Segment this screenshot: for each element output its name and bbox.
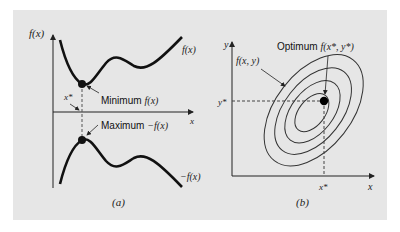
panel-a: f(x) x f(x) −f(x) x* Minimumf(x) Maximum… [29, 27, 201, 209]
optimum-arrow [325, 56, 328, 94]
maximum-arrow [87, 125, 98, 135]
x-star-label-a: x* [63, 92, 73, 102]
contour-1 [244, 36, 383, 184]
y-axis-label-a: f(x) [29, 27, 45, 40]
curve-f-label: f(x) [182, 44, 197, 56]
minimum-arrow [87, 86, 99, 93]
surface-label: f(x, y) [236, 55, 260, 67]
maximum-label: Maximum−f(x) [101, 120, 169, 132]
x-star-label-b: x* [318, 182, 328, 192]
surface-arrow [261, 69, 285, 86]
x-star-arrow-a [70, 104, 79, 110]
panel-b: y x y* x* f(x, y) Optimumf(x*, y*) (b) [217, 36, 383, 209]
contour-4 [288, 87, 336, 138]
x-axis-label-a: x [189, 116, 194, 126]
optimum-label: Optimumf(x*, y*) [277, 41, 355, 53]
minimum-label: Minimumf(x) [101, 95, 159, 107]
minimum-point [78, 80, 86, 88]
y-star-label: y* [217, 97, 227, 107]
y-axis-label-b: y [223, 39, 229, 50]
curve-neg-f [60, 139, 182, 187]
maximum-point [78, 136, 86, 144]
caption-a: (a) [112, 196, 125, 209]
optimization-figure: f(x) x f(x) −f(x) x* Minimumf(x) Maximum… [0, 0, 400, 232]
x-axis-label-b: x [367, 181, 373, 192]
curve-f [60, 37, 182, 85]
contour-2 [259, 54, 366, 169]
curve-neg-f-label: −f(x) [180, 171, 201, 183]
optimum-point [320, 97, 328, 105]
caption-b: (b) [296, 196, 309, 209]
contour-group [244, 36, 383, 184]
contour-3 [274, 71, 351, 154]
